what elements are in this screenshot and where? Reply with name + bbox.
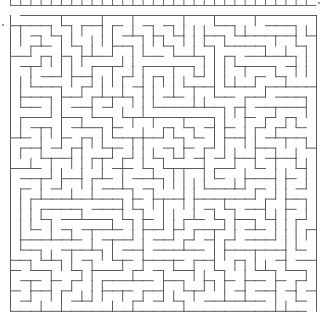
right-edge-marker (318, 2, 320, 4)
maze-grid (0, 0, 326, 321)
left-edge-marker (2, 24, 4, 26)
